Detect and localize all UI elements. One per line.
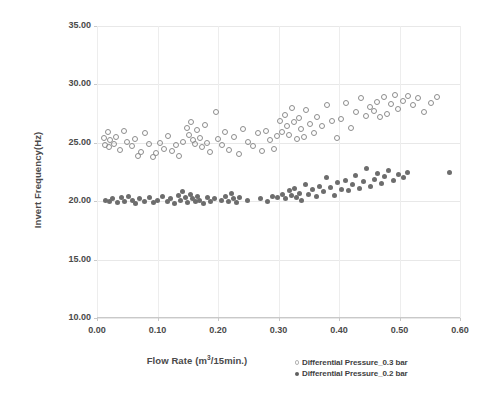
data-point	[314, 194, 319, 199]
data-point	[226, 147, 232, 153]
data-point	[343, 100, 349, 106]
x-tick-label: 0.10	[136, 325, 180, 335]
data-point	[255, 130, 261, 136]
data-point	[277, 118, 283, 124]
data-point	[294, 136, 300, 142]
data-point	[121, 128, 127, 134]
y-tick-label: 35.00	[47, 20, 91, 30]
data-point	[392, 92, 398, 98]
data-point	[353, 109, 359, 115]
chart-legend: Differential Pressure_0.3 bar Differenti…	[292, 357, 408, 379]
data-point	[142, 199, 147, 204]
data-point	[410, 102, 416, 108]
data-point	[374, 99, 380, 105]
data-point	[381, 94, 387, 100]
x-tick-label: 0.40	[317, 325, 361, 335]
y-tickmark	[94, 201, 97, 202]
data-point	[184, 125, 190, 131]
data-point	[275, 195, 280, 200]
x-tick-label: 0.30	[257, 325, 301, 335]
data-point	[346, 188, 351, 193]
y-tickmark	[94, 318, 97, 319]
data-point	[180, 189, 185, 194]
y-tickmark	[94, 260, 97, 261]
data-point	[421, 109, 427, 115]
data-point	[263, 128, 269, 134]
data-point	[229, 191, 234, 196]
data-point	[301, 134, 307, 140]
data-point	[324, 175, 329, 180]
data-point	[307, 121, 313, 127]
data-point	[361, 179, 366, 184]
data-point	[115, 200, 120, 205]
data-point	[339, 187, 344, 192]
data-point	[405, 170, 410, 175]
data-point	[122, 199, 127, 204]
x-tickmark	[279, 318, 280, 321]
data-point	[279, 129, 285, 135]
data-point	[142, 130, 148, 136]
data-point	[250, 143, 256, 149]
data-point	[146, 141, 152, 147]
data-point	[160, 194, 165, 199]
data-point	[188, 119, 194, 125]
data-point	[201, 201, 206, 206]
data-point	[391, 178, 396, 183]
x-axis-title-suffix: /15min.)	[211, 355, 248, 366]
legend-item-0[interactable]: Differential Pressure_0.3 bar	[292, 357, 408, 368]
data-point	[192, 141, 198, 147]
data-point	[314, 114, 320, 120]
y-tick-label: 15.00	[47, 254, 91, 264]
data-point	[298, 126, 304, 132]
y-tickmark	[94, 143, 97, 144]
gridline-vertical	[339, 26, 340, 318]
data-point	[265, 199, 270, 204]
y-tick-label: 10.00	[47, 312, 91, 322]
data-point	[319, 123, 325, 129]
data-point	[117, 147, 123, 153]
data-point	[299, 198, 304, 203]
data-point	[329, 118, 335, 124]
y-tick-label: 25.00	[47, 137, 91, 147]
data-point	[317, 184, 322, 189]
x-tickmark	[400, 318, 401, 321]
y-tick-label: 20.00	[47, 195, 91, 205]
data-point	[363, 113, 369, 119]
y-tick-label: 30.00	[47, 78, 91, 88]
data-point	[204, 140, 210, 146]
data-point	[372, 177, 377, 182]
data-point	[173, 142, 179, 148]
data-point	[377, 114, 383, 120]
plot-area	[97, 26, 460, 318]
data-point	[219, 142, 225, 148]
data-point	[353, 173, 358, 178]
data-point	[289, 105, 295, 111]
data-point	[105, 129, 111, 135]
data-point	[286, 132, 292, 138]
data-point	[113, 134, 119, 140]
gridline-vertical	[158, 26, 159, 318]
y-axis-title: Invert Frequency(Hz)	[14, 0, 25, 90]
data-point	[147, 195, 152, 200]
data-point	[332, 193, 337, 198]
y-axis-title-text: Invert Frequency(Hz)	[32, 90, 43, 270]
data-point	[237, 195, 242, 200]
x-axis-title: Flow Rate (m3/15min.)	[97, 355, 297, 366]
x-tick-label: 0.60	[438, 325, 482, 335]
open-circle-icon	[292, 360, 302, 365]
data-point	[236, 151, 242, 157]
filled-circle-icon	[292, 372, 302, 376]
data-point	[348, 125, 354, 131]
data-point	[400, 98, 406, 104]
gridline-vertical	[279, 26, 280, 318]
gridline-vertical	[97, 26, 98, 318]
data-point	[132, 136, 138, 142]
legend-item-1[interactable]: Differential Pressure_0.2 bar	[292, 368, 408, 379]
x-axis-title-prefix: Flow Rate (m	[147, 355, 207, 366]
data-point	[447, 170, 452, 175]
data-point	[282, 112, 288, 118]
data-point	[350, 182, 355, 187]
data-point	[284, 123, 290, 129]
data-point	[157, 140, 163, 146]
gridline-vertical	[218, 26, 219, 318]
